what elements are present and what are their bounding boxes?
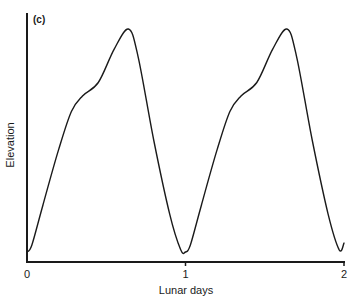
elevation-chart: 012 (c) Lunar days Elevation (0, 0, 360, 305)
x-axis-label: Lunar days (159, 284, 214, 296)
y-axis-label: Elevation (4, 122, 16, 167)
x-ticks: 012 (24, 262, 347, 280)
elevation-curve (27, 29, 344, 254)
panel-label: (c) (33, 14, 45, 25)
x-tick-label: 2 (341, 268, 347, 280)
x-tick-label: 0 (24, 268, 30, 280)
x-tick-label: 1 (182, 268, 188, 280)
